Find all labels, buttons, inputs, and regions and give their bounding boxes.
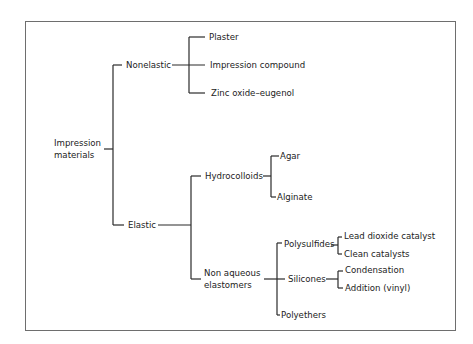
node-impression-compound: Impression compound [210,59,305,71]
node-elastic: Elastic [128,219,156,231]
node-polysulfides: Polysulfides [284,238,335,250]
node-label-line2: elastomers [204,279,261,291]
node-nonelastic: Nonelastic [126,59,171,71]
node-label-line1: Non aqueous [204,268,261,280]
node-alginate: Alginate [277,191,312,203]
node-agar: Agar [280,150,300,162]
node-silicones: Silicones [288,273,326,285]
node-polyethers: Polyethers [281,309,326,321]
node-non-aqueous-elastomers: Non aqueous elastomers [204,268,261,291]
node-impression-materials: Impression materials [54,138,101,161]
node-plaster: Plaster [209,31,239,43]
node-clean-catalysts: Clean catalysts [344,248,410,260]
node-label-line2: materials [54,149,101,161]
node-hydrocolloids: Hydrocolloids [205,170,263,182]
node-condensation: Condensation [345,264,404,276]
node-lead-dioxide-catalyst: Lead dioxide catalyst [344,230,435,242]
node-addition-vinyl: Addition (vinyl) [345,282,410,294]
node-zinc-oxide-eugenol: Zinc oxide–eugenol [211,87,294,99]
node-label-line1: Impression [54,138,101,150]
